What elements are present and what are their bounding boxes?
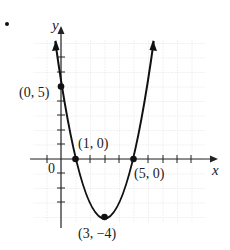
point-label-0-5: (0, 5) — [19, 86, 49, 100]
y-axis-label: y — [52, 18, 59, 33]
x-axis-label: x — [212, 163, 219, 178]
point-label-5-0: (5, 0) — [134, 167, 164, 181]
origin-label: 0 — [48, 162, 55, 176]
point-5-0 — [130, 156, 137, 163]
point-3-neg4 — [101, 214, 108, 221]
point-label-3-neg4: (3, −4) — [78, 227, 116, 241]
point-label-1-0: (1, 0) — [78, 137, 108, 151]
point-1-0 — [72, 156, 79, 163]
point-0-5 — [58, 83, 65, 90]
parabola-graph — [0, 0, 230, 250]
